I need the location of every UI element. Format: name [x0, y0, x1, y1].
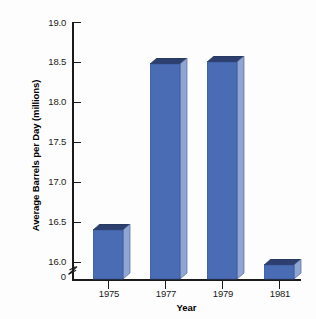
y-tick-label-16-0: 16.0	[34, 256, 66, 267]
y-tick-mark-16-5	[73, 222, 81, 223]
bar-1977	[150, 58, 188, 280]
y-tick-mark-17-0	[73, 182, 81, 183]
bar-side-face	[180, 58, 187, 279]
y-tick-label-16-5: 16.5	[34, 216, 66, 227]
bar-front-face	[93, 230, 123, 279]
bar-front-face	[150, 64, 180, 279]
bar-chart: Average Barrels per Day (millions) 19.0 …	[0, 0, 316, 319]
y-tick-label-18-0: 18.0	[34, 96, 66, 107]
y-tick-label-zero: 0	[34, 271, 66, 282]
y-tick-mark-19-0	[73, 22, 81, 23]
y-tick-label-18-5: 18.5	[34, 56, 66, 67]
y-tick-mark-17-5	[73, 142, 81, 143]
y-tick-mark-18-0	[73, 102, 81, 103]
bar-side-face	[237, 56, 244, 279]
bar-front-face	[207, 62, 237, 279]
x-tick-label-1981: 1981	[257, 288, 303, 299]
bar-front-face	[264, 265, 294, 279]
bar-side-face	[123, 224, 130, 279]
y-tick-label-17-0: 17.0	[34, 176, 66, 187]
x-tick-label-1977: 1977	[143, 288, 189, 299]
bar-1975	[93, 224, 131, 280]
x-tick-label-1979: 1979	[200, 288, 246, 299]
x-tick-label-1975: 1975	[86, 288, 132, 299]
bar-1981	[264, 259, 302, 280]
y-tick-label-17-5: 17.5	[34, 136, 66, 147]
y-tick-label-19-0: 19.0	[34, 17, 66, 28]
bar-1979	[207, 56, 245, 280]
y-axis-title: Average Barrels per Day (millions)	[30, 41, 41, 271]
axis-break-icon	[66, 263, 80, 277]
y-axis-line	[72, 22, 74, 280]
y-tick-mark-18-5	[73, 62, 81, 63]
x-axis-title: Year	[72, 302, 301, 313]
